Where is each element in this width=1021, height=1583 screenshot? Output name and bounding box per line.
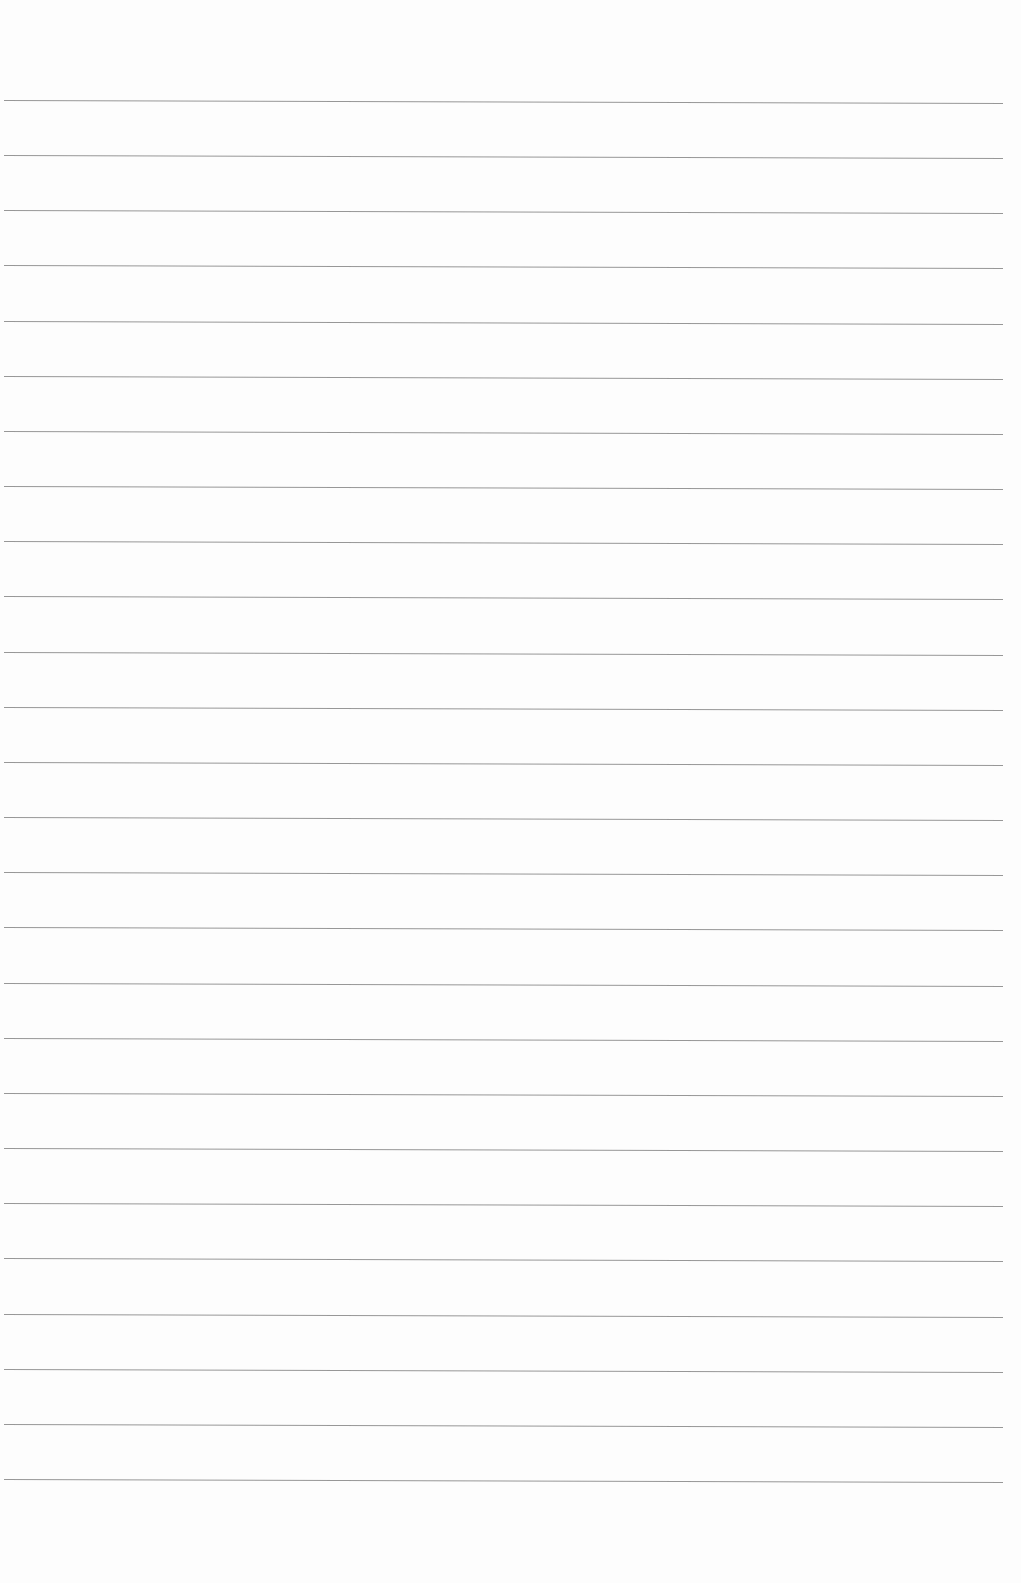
ruled-line <box>4 376 1003 380</box>
ruled-line <box>4 155 1003 159</box>
ruled-line <box>4 762 1003 766</box>
ruled-line <box>4 210 1003 214</box>
ruled-line <box>4 1203 1003 1207</box>
ruled-line <box>4 817 1003 821</box>
ruled-line <box>4 927 1003 931</box>
ruled-line <box>4 1038 1003 1042</box>
ruled-line <box>4 1369 1003 1373</box>
ruled-line <box>4 707 1003 711</box>
ruled-line <box>4 652 1003 656</box>
lined-paper-sheet <box>0 0 1021 1583</box>
ruled-line <box>4 265 1003 269</box>
ruled-line <box>4 596 1003 600</box>
ruled-line <box>4 321 1003 325</box>
ruled-line <box>4 1479 1003 1483</box>
ruled-line <box>4 486 1003 490</box>
ruled-line <box>4 431 1003 435</box>
ruled-line <box>4 1314 1003 1318</box>
ruled-line <box>4 100 1003 104</box>
ruled-line <box>4 1148 1003 1152</box>
ruled-line <box>4 1258 1003 1262</box>
ruled-line <box>4 1093 1003 1097</box>
ruled-line <box>4 541 1003 545</box>
ruled-line <box>4 872 1003 876</box>
ruled-line <box>4 983 1003 987</box>
ruled-line <box>4 1424 1003 1428</box>
